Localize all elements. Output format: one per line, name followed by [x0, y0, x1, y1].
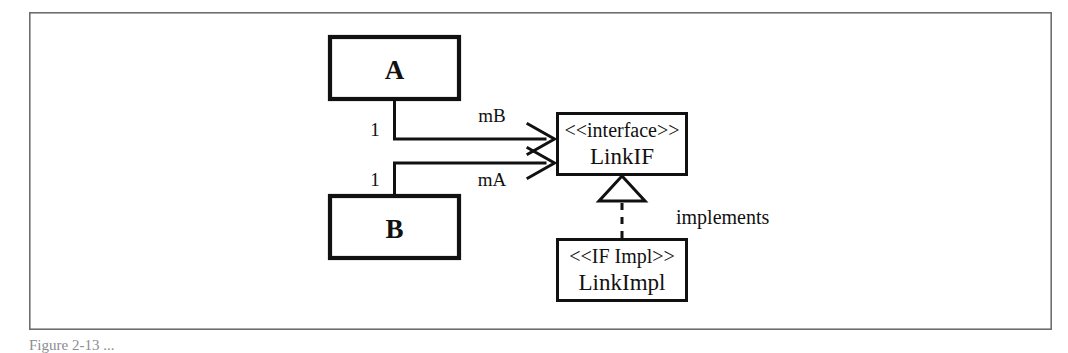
- multiplicity-label-a: 1: [370, 119, 380, 140]
- class-box-linkimpl-stereotype: <<IF Impl>>: [569, 245, 675, 268]
- class-box-linkimpl-name: LinkImpl: [579, 270, 666, 295]
- uml-class-diagram: A B <<interface>> LinkIF <<IF Impl>> Lin…: [0, 0, 1068, 353]
- class-box-a-name: A: [385, 55, 405, 85]
- interface-box-linkif-name: LinkIF: [590, 144, 654, 169]
- role-label-ma: mA: [478, 169, 507, 190]
- multiplicity-label-b: 1: [370, 169, 380, 190]
- class-box-linkimpl[interactable]: <<IF Impl>> LinkImpl: [558, 240, 687, 301]
- realization-label: implements: [676, 206, 770, 229]
- interface-box-linkif[interactable]: <<interface>> LinkIF: [558, 114, 687, 175]
- class-box-a[interactable]: A: [330, 37, 459, 99]
- class-box-b[interactable]: B: [330, 196, 459, 258]
- figure-caption: Figure 2-13 ...: [29, 336, 1029, 353]
- role-label-mb: mB: [478, 105, 505, 126]
- interface-box-linkif-stereotype: <<interface>>: [564, 119, 679, 141]
- class-box-b-name: B: [385, 214, 403, 244]
- figure-root: A B <<interface>> LinkIF <<IF Impl>> Lin…: [0, 0, 1068, 353]
